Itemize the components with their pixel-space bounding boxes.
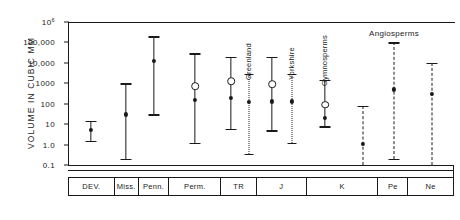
mean-marker — [323, 116, 327, 120]
range-line — [249, 74, 250, 154]
y-tick-label: 10 — [45, 120, 55, 129]
upper-cap — [190, 53, 201, 54]
category-cell-penn: Penn. — [139, 178, 170, 195]
y-tick-label: 106 — [42, 17, 55, 28]
mean-marker — [89, 128, 93, 132]
series-j-yorkshire — [280, 74, 304, 143]
lower-cap — [389, 159, 400, 160]
range-line — [125, 83, 126, 159]
range-line — [363, 106, 364, 165]
series-annotation: Gymnosperms — [320, 35, 329, 86]
category-cell-ne: Ne — [408, 178, 453, 195]
range-line — [292, 74, 293, 143]
axis-bottom — [68, 165, 454, 166]
upper-cap — [389, 42, 400, 43]
category-cell-j: J — [257, 178, 307, 195]
series-miss- — [114, 83, 138, 159]
mean-marker — [124, 112, 128, 116]
lower-cap — [86, 141, 97, 142]
series-tr-greenland — [237, 74, 261, 154]
lower-cap — [267, 130, 278, 131]
mean-marker — [290, 99, 294, 103]
series-perm- — [183, 53, 207, 143]
category-cell-pe: Pe — [378, 178, 408, 195]
upper-cap — [267, 57, 278, 58]
category-cell-perm: Perm. — [169, 178, 221, 195]
lower-cap — [426, 165, 437, 166]
y-tick-label: 100,000 — [23, 38, 55, 47]
median-marker — [321, 101, 329, 109]
upper-cap — [148, 36, 159, 37]
y-tick-label: 1.0 — [43, 140, 55, 149]
category-row-top-border — [68, 170, 454, 171]
upper-cap — [358, 106, 369, 107]
y-tick-label: 1000 — [36, 79, 55, 88]
lower-cap — [358, 165, 369, 166]
upper-cap — [426, 63, 437, 64]
mean-marker — [429, 92, 433, 96]
mean-marker — [270, 99, 274, 103]
median-marker — [227, 77, 235, 85]
range-line — [153, 36, 154, 114]
series-annotation: Greenland — [244, 43, 253, 80]
mean-marker — [247, 100, 251, 104]
category-cell-tr: TR — [221, 178, 257, 195]
lower-cap — [121, 159, 132, 160]
series-k-gymnosperms — [313, 80, 337, 126]
lower-cap — [226, 129, 237, 130]
median-marker — [191, 83, 199, 91]
lower-cap — [190, 143, 201, 144]
range-line — [394, 42, 395, 158]
upper-cap — [86, 121, 97, 122]
chart-root: VOLUME IN CUBIC MM 106100,00010,00010001… — [0, 0, 460, 220]
category-cell-miss: Miss. — [115, 178, 139, 195]
category-cell-dev: DEV. — [69, 178, 115, 195]
lower-cap — [245, 154, 254, 155]
category-axis-row: DEV.Miss.Penn.Perm.TRJKPeNe — [68, 177, 454, 196]
series-dev- — [79, 121, 103, 141]
mean-marker — [229, 95, 233, 99]
upper-cap — [121, 83, 132, 84]
lower-cap — [320, 126, 331, 127]
mean-marker — [361, 142, 365, 146]
upper-cap — [226, 57, 237, 58]
lower-cap — [288, 143, 297, 144]
range-line — [230, 57, 231, 129]
series-annotation: Yorkshire — [287, 47, 296, 80]
series-penn- — [142, 36, 166, 114]
mean-marker — [193, 98, 197, 102]
y-tick-label: 100 — [40, 99, 55, 108]
mean-marker — [151, 59, 155, 63]
series-k-angiosperms — [351, 106, 375, 165]
series-annotation: Angiosperms — [369, 29, 419, 38]
lower-cap — [148, 114, 159, 115]
median-marker — [268, 80, 276, 88]
mean-marker — [392, 87, 396, 91]
y-tick-label: 10,000 — [28, 58, 55, 67]
y-axis-ticks: 106100,00010,0001000100101.00.1 — [0, 0, 64, 220]
y-tick-label: 0.1 — [43, 161, 55, 170]
range-line — [431, 63, 432, 165]
range-line — [271, 57, 272, 131]
series-ne-angiosperms — [420, 63, 444, 165]
series-pe-angiosperms — [382, 42, 406, 158]
category-cell-k: K — [307, 178, 379, 195]
